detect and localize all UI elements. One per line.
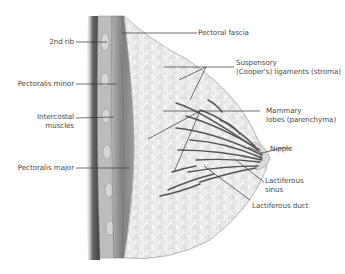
label-pectoralis-major: Pectoralis major: [4, 164, 74, 173]
label-mammary-line2: lobes (parenchyma): [266, 116, 336, 125]
label-2nd-rib: 2nd rib: [28, 38, 74, 47]
label-suspensory-line2: (Cooper's) ligaments (stroma): [236, 68, 341, 77]
label-lactiferous-duct: Lactiferous duct: [252, 202, 308, 211]
label-intercostal-line2: muscles: [20, 122, 74, 131]
label-sinus-line2: sinus: [265, 186, 304, 195]
breast-tissue: [124, 16, 270, 259]
label-intercostal-muscles: Intercostal muscles: [20, 113, 74, 130]
label-pectoral-fascia: Pectoral fascia: [198, 29, 249, 38]
label-suspensory-ligaments: Suspensory (Cooper's) ligaments (stroma): [236, 59, 341, 76]
label-nipple: Nipple: [270, 145, 292, 154]
label-mammary-lobes: Mammary lobes (parenchyma): [266, 107, 336, 124]
label-pectoralis-minor: Pectoralis minor: [4, 80, 74, 89]
label-lactiferous-sinus: Lactiferous sinus: [265, 177, 304, 194]
